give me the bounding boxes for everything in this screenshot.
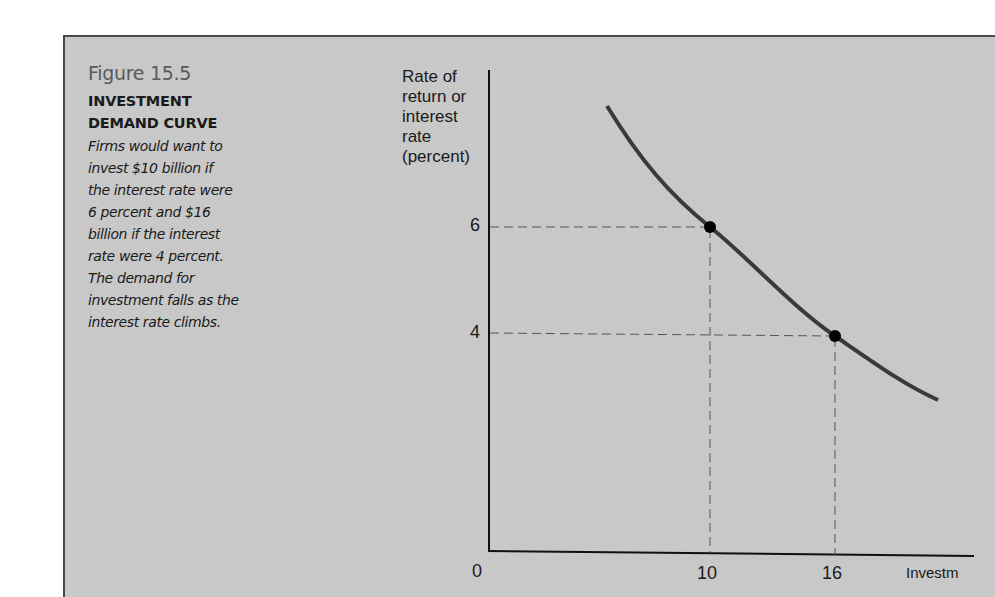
x-tick-16: 16: [822, 563, 842, 584]
investment-demand-curve: [607, 106, 938, 400]
origin-label: 0: [472, 561, 482, 582]
y-tick-4: 4: [470, 322, 480, 343]
x-axis: [488, 551, 974, 556]
y-tick-6: 6: [470, 215, 480, 236]
data-point-10-6: [704, 221, 716, 233]
x-axis-label: Investm: [906, 564, 959, 581]
x-tick-10: 10: [697, 563, 717, 584]
data-point-16-4: [829, 330, 841, 342]
guide-y4: [490, 333, 833, 336]
